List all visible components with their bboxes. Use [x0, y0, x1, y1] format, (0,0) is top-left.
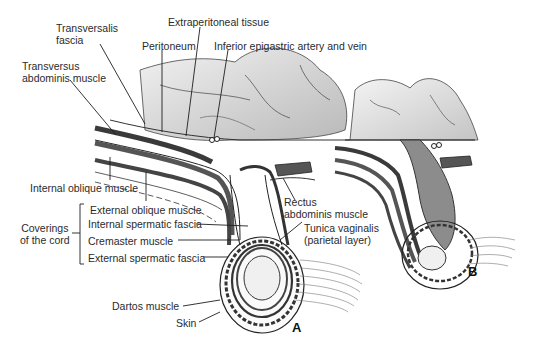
inferior-epigastric-vessels	[210, 138, 215, 143]
label-external-oblique: External oblique muscle	[90, 204, 201, 216]
testis	[418, 246, 446, 270]
label-line: Transversus	[22, 60, 106, 72]
label-extraperitoneal-tissue: Extraperitoneal tissue	[168, 16, 269, 28]
label-internal-spermatic-fascia: Internal spermatic fascia	[88, 218, 202, 230]
label-inferior-epigastric: Inferior epigastric artery and vein	[214, 40, 367, 52]
hernia-sac	[400, 140, 455, 250]
rectus-abdominis	[275, 162, 312, 176]
label-cremaster-muscle: Cremaster muscle	[88, 235, 173, 247]
label-transversus-abdominis: Transversus abdominis muscle	[22, 60, 106, 84]
label-line: abdominis muscle	[284, 208, 368, 220]
label-line: Rectus	[284, 196, 368, 208]
label-internal-oblique: Internal oblique muscle	[30, 182, 138, 194]
label-line: Tunica vaginalis	[304, 222, 379, 234]
panel-b-drawing	[335, 79, 515, 289]
label-dartos-muscle: Dartos muscle	[112, 300, 179, 312]
testis	[244, 256, 280, 300]
label-line: Coverings	[20, 222, 70, 234]
label-peritoneum: Peritoneum	[142, 40, 196, 52]
label-skin: Skin	[176, 317, 196, 329]
label-line: (parietal layer)	[304, 234, 379, 246]
label-line: of the cord	[20, 234, 70, 246]
label-tunica-vaginalis: Tunica vaginalis (parietal layer)	[304, 222, 379, 246]
label-line: abdominis muscle	[22, 72, 106, 84]
label-external-spermatic-fascia: External spermatic fascia	[88, 252, 205, 264]
panel-label-a: A	[292, 320, 301, 335]
label-line: Transversalis	[56, 22, 118, 34]
label-transversalis-fascia: Transversalis fascia	[56, 22, 118, 46]
label-rectus-abdominis: Rectus abdominis muscle	[284, 196, 368, 220]
label-line: fascia	[56, 34, 118, 46]
panel-label-b: B	[468, 264, 477, 279]
label-coverings-of-cord: Coverings of the cord	[20, 222, 70, 246]
intestine	[140, 48, 347, 140]
intestine	[350, 79, 478, 140]
inguinal-hernia-illustration	[0, 0, 534, 348]
